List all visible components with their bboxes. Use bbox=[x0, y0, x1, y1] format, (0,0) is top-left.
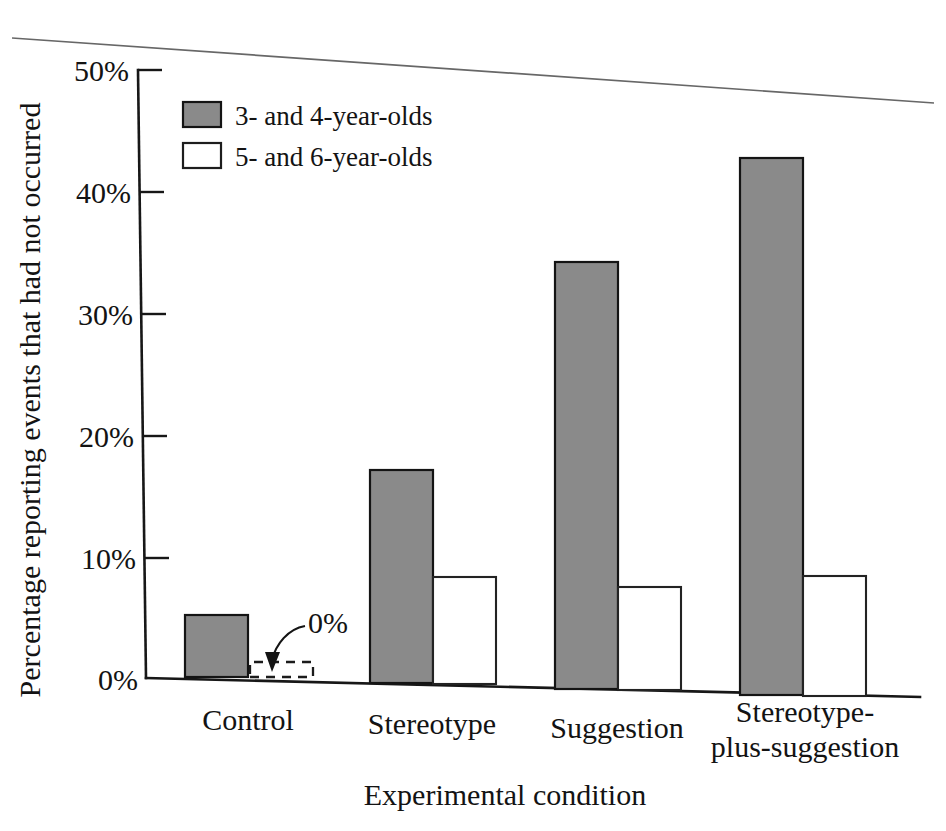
x-tick-label-stereotype: Stereotype bbox=[368, 707, 496, 740]
y-tick-label-40: 40% bbox=[76, 176, 131, 209]
y-tick-label-10: 10% bbox=[81, 542, 136, 575]
bar-young-stereotype bbox=[370, 470, 433, 683]
y-axis-title: Percentage reporting events that had not… bbox=[13, 103, 46, 698]
bar-older-suggestion bbox=[618, 587, 681, 690]
y-tick-label-20: 20% bbox=[79, 420, 134, 453]
bar-older-control-zero-outline bbox=[250, 662, 313, 677]
chart-figure: 50% 40% 30% 20% 10% 0% 0% 3- and 4-year-… bbox=[0, 0, 946, 831]
y-tick-label-30: 30% bbox=[78, 298, 133, 331]
y-tick-label-50: 50% bbox=[74, 54, 129, 87]
x-tick-label-stereotype-plus-suggestion-line1: Stereotype- bbox=[736, 695, 874, 728]
legend-label-young: 3- and 4-year-olds bbox=[235, 101, 432, 131]
x-tick-label-stereotype-plus-suggestion-line2: plus-suggestion bbox=[711, 730, 899, 763]
bar-young-control bbox=[185, 615, 248, 677]
x-tick-label-suggestion: Suggestion bbox=[550, 711, 683, 744]
legend-label-older: 5- and 6-year-olds bbox=[235, 142, 432, 172]
annotation-zero-percent-label: 0% bbox=[308, 606, 348, 639]
y-axis-line bbox=[138, 70, 146, 678]
legend-swatch-young-icon bbox=[183, 102, 221, 127]
bar-young-stereotype-plus-suggestion bbox=[740, 158, 803, 695]
x-axis-title: Experimental condition bbox=[364, 778, 646, 811]
bar-young-suggestion bbox=[555, 262, 618, 689]
bar-older-stereotype-plus-suggestion bbox=[803, 576, 866, 696]
bar-chart-svg: 50% 40% 30% 20% 10% 0% 0% 3- and 4-year-… bbox=[0, 0, 946, 831]
legend-swatch-older-icon bbox=[183, 143, 221, 168]
x-tick-label-control: Control bbox=[202, 703, 294, 736]
bar-older-stereotype bbox=[433, 577, 496, 684]
y-tick-label-0: 0% bbox=[98, 663, 138, 696]
